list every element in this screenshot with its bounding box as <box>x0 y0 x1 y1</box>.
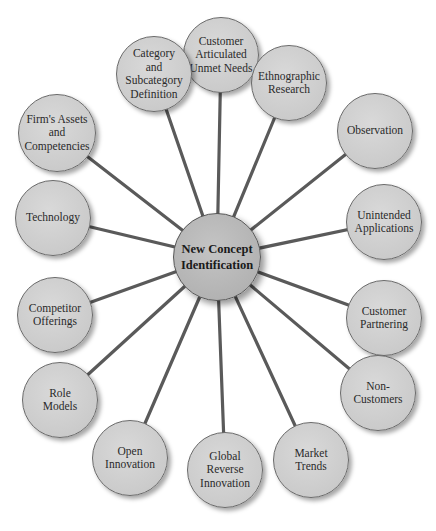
node-label: Ethnographic Research <box>254 70 324 97</box>
node-label: Category and Subcategory Definition <box>121 47 186 101</box>
node-label: Technology <box>22 211 84 225</box>
node-unintended-applications: Unintended Applications <box>346 184 422 260</box>
node-label: Non- Customers <box>349 380 406 407</box>
node-firms-assets-and-competencies: Firm's Assets and Competencies <box>18 94 96 172</box>
node-label: Customer Partnering <box>356 305 412 332</box>
node-label: Open Innovation <box>101 445 159 472</box>
node-label: Role Models <box>39 387 82 414</box>
node-open-innovation: Open Innovation <box>92 420 168 496</box>
center-node-label: New Concept Identification <box>177 241 257 273</box>
node-label: Unintended Applications <box>351 209 418 236</box>
node-label: Observation <box>343 124 407 138</box>
node-technology: Technology <box>15 180 91 256</box>
node-customer-partnering: Customer Partnering <box>346 280 422 356</box>
node-market-trends: Market Trends <box>273 422 349 498</box>
node-category-and-subcategory-definition: Category and Subcategory Definition <box>116 36 192 112</box>
node-non-customers: Non- Customers <box>340 355 416 431</box>
node-role-models: Role Models <box>22 362 98 438</box>
node-label: Competitor Offerings <box>25 302 85 329</box>
node-label: Global Reverse Innovation <box>196 450 254 491</box>
node-ethnographic-research: Ethnographic Research <box>251 45 327 121</box>
node-customer-articulated-unmet-needs: Customer Articulated Unmet Needs <box>183 17 259 93</box>
node-label: Firm's Assets and Competencies <box>20 113 93 154</box>
concept-identification-diagram: Customer Articulated Unmet NeedsCategory… <box>0 0 436 531</box>
node-observation: Observation <box>337 93 413 169</box>
node-global-reverse-innovation: Global Reverse Innovation <box>187 432 263 508</box>
node-label: Customer Articulated Unmet Needs <box>186 35 257 76</box>
node-competitor-offerings: Competitor Offerings <box>17 277 93 353</box>
center-node-new-concept-identification: New Concept Identification <box>173 213 261 301</box>
node-label: Market Trends <box>290 447 331 474</box>
